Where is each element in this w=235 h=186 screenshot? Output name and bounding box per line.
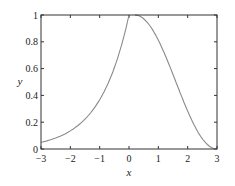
y-tick-label: 0.8 bbox=[26, 36, 39, 47]
y-tick-label: 0.2 bbox=[26, 117, 39, 128]
line-chart: −3−2−1012300.20.40.60.81 x y bbox=[0, 0, 235, 186]
y-tick-label: 0 bbox=[33, 144, 38, 155]
x-tick-label: 1 bbox=[156, 153, 161, 164]
left-branch-curve bbox=[41, 15, 129, 142]
x-tick-label: 2 bbox=[185, 153, 190, 164]
x-tick-label: −1 bbox=[94, 153, 105, 164]
plot-frame bbox=[41, 15, 217, 149]
axis-ticks: −3−2−1012300.20.40.60.81 bbox=[26, 10, 220, 165]
x-axis-label: x bbox=[126, 166, 132, 178]
y-tick-label: 0.6 bbox=[26, 63, 39, 74]
x-tick-label: −2 bbox=[65, 153, 76, 164]
x-tick-label: 3 bbox=[215, 153, 220, 164]
y-tick-label: 0.4 bbox=[26, 90, 39, 101]
y-axis-label: y bbox=[17, 75, 23, 87]
x-tick-label: 0 bbox=[127, 153, 132, 164]
plot-curves bbox=[41, 15, 217, 149]
x-tick-label: −3 bbox=[36, 153, 47, 164]
right-branch-curve bbox=[135, 15, 217, 149]
y-tick-label: 1 bbox=[33, 10, 38, 21]
